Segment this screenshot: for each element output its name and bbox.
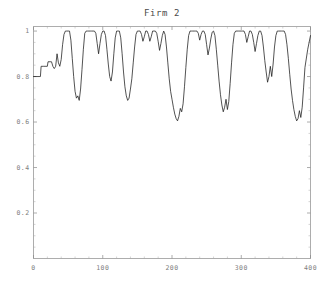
plot-area: 0.20.40.60.810100200300400 [0,0,324,287]
tick-labels-group: 0.20.40.60.810100200300400 [17,27,317,271]
y-tick-label: 0.2 [17,209,30,217]
ticks-group [34,27,311,259]
x-tick-label: 0 [31,264,35,272]
y-tick-label: 1 [25,27,29,35]
x-tick-label: 300 [235,264,248,272]
x-tick-label: 200 [166,264,179,272]
y-tick-label: 0.4 [17,164,30,172]
x-tick-label: 100 [96,264,109,272]
y-tick-label: 0.8 [17,73,30,81]
chart-figure: Firm 2 0.20.40.60.810100200300400 [0,0,324,287]
x-tick-label: 400 [304,264,317,272]
axes-group [34,27,311,259]
data-series-line [34,31,311,121]
y-tick-label: 0.6 [17,118,30,126]
